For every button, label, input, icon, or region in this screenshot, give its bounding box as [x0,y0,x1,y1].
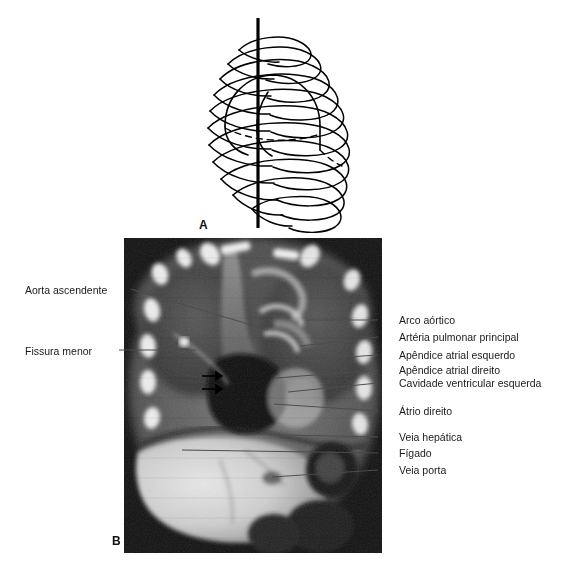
label-apendice-atrial-direito: Apêndice atrial direito [399,364,500,376]
anatomy-figure: A [0,0,573,586]
label-cavidade-ventricular-esquerda: Cavidade ventricular esquerda [399,377,541,389]
label-atrio-direito: Átrio direito [399,405,452,417]
label-arteria-pulmonar-principal: Artéria pulmonar principal [399,331,519,343]
label-figado: Fígado [399,447,432,459]
panel-a-ribcage-diagram: A [0,0,573,238]
label-fissura-menor: Fissura menor [25,345,92,357]
label-aorta-ascendente: Aorta ascendente [25,284,107,296]
label-veia-porta: Veia porta [399,464,446,476]
label-veia-hepatica: Veia hepática [399,431,462,443]
label-apendice-atrial-esquerdo: Apêndice atrial esquerdo [399,349,515,361]
coronal-plane-line [0,0,573,238]
coronal-mri-image [124,238,382,553]
panel-b-letter: B [112,534,121,548]
label-arco-aortico: Arco aórtico [399,314,455,326]
panel-a-letter: A [199,218,208,232]
